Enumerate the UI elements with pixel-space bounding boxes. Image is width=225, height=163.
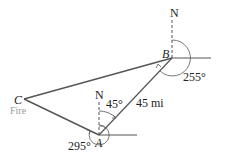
point-label-B: B: [162, 48, 169, 60]
arc-small-A: [99, 126, 106, 128]
bearing-diagram: N B 255° N 45° 45 mi C Fire A 295°: [0, 0, 225, 163]
arc-45-A: [99, 111, 116, 118]
angle-label-255: 255°: [183, 71, 206, 83]
distance-label-AB: 45 mi: [136, 97, 164, 109]
fire-label: Fire: [10, 106, 26, 116]
side-CA: [24, 99, 99, 135]
angle-label-45: 45°: [106, 98, 123, 110]
arc-arrow-295: [87, 130, 90, 134]
arc-arrow-B: [156, 64, 161, 68]
north-label-B: N: [170, 7, 179, 19]
point-label-A: A: [95, 137, 102, 149]
angle-label-295: 295°: [68, 140, 91, 152]
north-label-A: N: [95, 89, 104, 101]
